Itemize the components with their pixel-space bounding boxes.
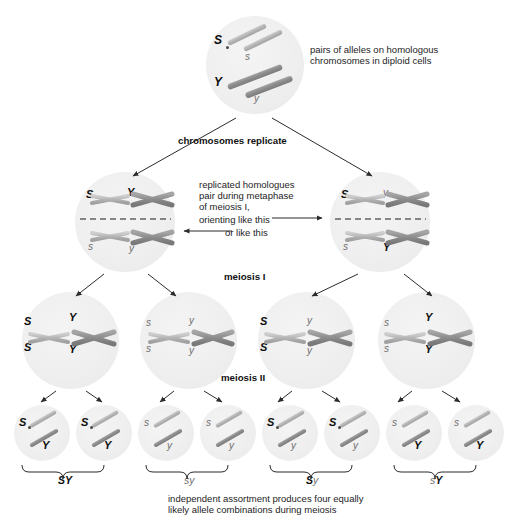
allele-bl-cell1: S	[24, 342, 31, 353]
allele-tr-cell3: y	[307, 316, 312, 326]
metaphase-cell-left: S Y s y	[75, 172, 175, 272]
allele-upper-gamete6: S	[329, 417, 336, 428]
allele-lower-gamete4: y	[229, 441, 234, 451]
chromatid-upper-g2	[91, 410, 119, 428]
metaphase-note-line5: or like this	[225, 227, 268, 238]
genotype-1-first: S	[58, 474, 65, 486]
gamete-braces	[22, 465, 476, 479]
centromere-g5	[276, 426, 279, 429]
allele-bl-cell3: S	[260, 342, 267, 353]
allele-upper-gamete8: s	[454, 418, 459, 428]
allele-s-parent: s	[245, 52, 250, 62]
allele-lower-gamete2: Y	[104, 440, 111, 451]
allele-br-cell4: Y	[425, 344, 432, 355]
allele-upper-gamete2: S	[81, 417, 88, 428]
chromatid-upper-g7	[401, 410, 429, 428]
allele-br-cell3: y	[307, 346, 312, 356]
metaphase-note-line2: pair during metaphase	[199, 190, 294, 201]
meiosis-i-label: meiosis I	[224, 271, 265, 282]
allele-S-meta-right: S	[341, 189, 348, 200]
allele-upper-gamete3: s	[144, 418, 149, 428]
allele-tr-cell1: Y	[69, 312, 76, 323]
chromosomes-replicate-label: chromosomes replicate	[178, 135, 287, 146]
gamete-4: s y	[200, 405, 256, 461]
allele-upper-gamete1: S	[19, 417, 26, 428]
branch-lines-meiosis-ii	[41, 391, 460, 402]
genotype-3-second: y	[313, 474, 318, 486]
allele-lower-gamete7: Y	[414, 440, 421, 451]
gamete-5: S y	[262, 405, 318, 461]
allele-br-cell2: y	[189, 346, 194, 356]
allele-lower-gamete5: y	[291, 441, 296, 451]
allele-bl-cell4: s	[384, 344, 389, 354]
gamete-6: S y	[324, 405, 380, 461]
genotype-3-first: S	[306, 474, 313, 486]
centromere-g1	[28, 426, 31, 429]
gamete-8: s Y	[448, 405, 504, 461]
allele-tl-cell2: s	[146, 318, 151, 328]
allele-s-meta-right: s	[343, 242, 348, 252]
genotype-sy-1: SY	[58, 474, 72, 486]
allele-lower-gamete1: Y	[42, 440, 49, 451]
centromere-S	[226, 46, 229, 49]
chromatid-upper-g6	[339, 410, 367, 428]
metaphase-note-line4: orienting like this	[199, 214, 270, 225]
chromatid-upper-g5	[277, 410, 305, 428]
allele-S-meta-left: S	[86, 189, 93, 200]
allele-Y-parent: Y	[214, 76, 222, 88]
allele-lower-gamete6: y	[353, 441, 358, 451]
allele-tr-cell4: Y	[425, 312, 432, 323]
genotype-1-second: Y	[65, 474, 72, 486]
allele-upper-gamete4: s	[206, 418, 211, 428]
chromatid-upper-g3	[153, 410, 181, 428]
bottom-caption: independent assortment produces four equ…	[168, 493, 428, 515]
allele-S-parent: S	[214, 34, 222, 46]
meiosis-i-cell-4: s s Y Y	[378, 292, 475, 389]
genotype-sy-4: sY	[430, 474, 442, 486]
metaphase-note-line3: of meiosis I,	[199, 201, 250, 212]
allele-Y-meta-left: Y	[127, 187, 134, 198]
allele-y-meta-right: y	[383, 188, 388, 198]
allele-tr-cell2: y	[189, 316, 194, 326]
allele-Y-meta-right: Y	[383, 242, 390, 253]
gamete-1: S Y	[14, 405, 70, 461]
allele-tl-cell1: S	[24, 316, 31, 327]
chromatid-upper-g8	[463, 410, 491, 428]
meiosis-ii-label: meiosis II	[221, 372, 265, 383]
genotype-2-second: y	[189, 474, 194, 486]
chromatid-upper-g1	[29, 410, 57, 428]
top-note: pairs of alleles on homologous chromosom…	[310, 44, 500, 66]
centromere-g2	[90, 426, 93, 429]
diploid-parent-cell: S s Y y	[206, 16, 304, 114]
meiosis-i-cell-1: S S Y Y	[22, 292, 119, 389]
gamete-7: s Y	[386, 405, 442, 461]
metaphase-cell-right: S y s Y	[330, 172, 430, 272]
chromatid-upper-g4	[215, 410, 243, 428]
allele-lower-gamete3: y	[167, 441, 172, 451]
allele-bl-cell2: s	[146, 344, 151, 354]
allele-tl-cell4: s	[384, 318, 389, 328]
allele-tl-cell3: S	[260, 316, 267, 327]
metaphase-note-line1: replicated homologues	[199, 179, 295, 190]
allele-upper-gamete5: S	[267, 417, 274, 428]
allele-br-cell1: Y	[69, 344, 76, 355]
allele-y-meta-left: y	[129, 244, 134, 254]
gamete-2: S Y	[76, 405, 132, 461]
allele-lower-gamete8: Y	[476, 440, 483, 451]
branch-lines-top	[133, 118, 372, 176]
allele-upper-gamete7: s	[392, 418, 397, 428]
centromere-g6	[338, 426, 341, 429]
genotype-sy-3: Sy	[306, 474, 318, 486]
meiosis-i-cell-3: S S y y	[258, 292, 355, 389]
genotype-sy-2: sy	[184, 474, 195, 486]
allele-s-meta-left: s	[88, 242, 93, 252]
genotype-4-second: Y	[435, 474, 442, 486]
gamete-3: s y	[138, 405, 194, 461]
